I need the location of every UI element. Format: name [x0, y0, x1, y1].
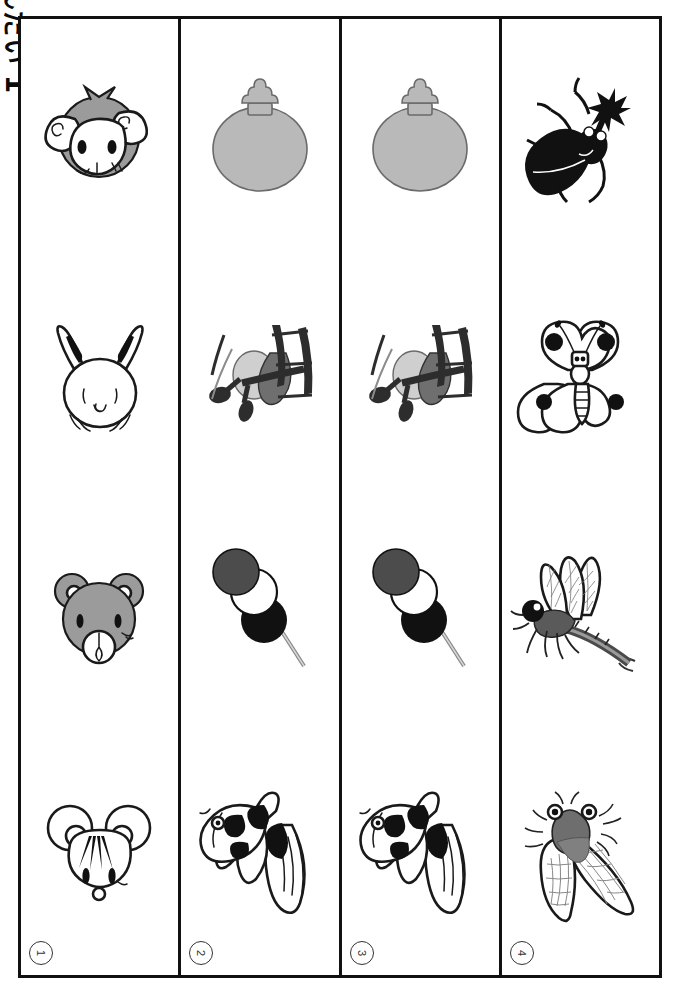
cell-c2-r2[interactable] [181, 258, 338, 497]
uchiwa-fan-icon [366, 79, 474, 199]
cell-c4-r4[interactable] [502, 736, 659, 975]
dragonfly-icon [519, 549, 641, 685]
worksheet-grid: 1 [18, 16, 662, 978]
rabbit-face-icon [44, 319, 156, 437]
cell-c2-r1[interactable] [181, 19, 338, 258]
column-2: 2 [181, 19, 341, 975]
cell-c4-r1[interactable] [502, 19, 659, 258]
cell-c1-r3[interactable] [21, 497, 178, 736]
rhinoceros-beetle-icon [519, 74, 641, 204]
butterfly-icon [520, 316, 640, 440]
cell-c3-r2[interactable] [342, 258, 499, 497]
cell-c4-r2[interactable] [502, 258, 659, 497]
cicada-icon [517, 790, 643, 922]
column-4: 4 [502, 19, 659, 975]
cell-c4-r3[interactable] [502, 497, 659, 736]
cell-c3-r3[interactable] [342, 497, 499, 736]
bear-face-icon [44, 561, 156, 673]
cell-c1-r4[interactable] [21, 736, 178, 975]
column-3: 3 [342, 19, 502, 975]
cell-c2-r3[interactable] [181, 497, 338, 736]
biplane-icon [360, 319, 480, 437]
column-1: 1 [21, 19, 181, 975]
cell-c3-r4[interactable] [342, 736, 499, 975]
column-label-3: 3 [350, 941, 374, 965]
cell-c1-r2[interactable] [21, 258, 178, 497]
uchiwa-fan-icon [206, 79, 314, 199]
biplane-icon [200, 319, 320, 437]
cell-c2-r4[interactable] [181, 736, 338, 975]
column-label-4: 4 [510, 941, 534, 965]
cell-c1-r1[interactable] [21, 19, 178, 258]
goldfish-icon [198, 791, 322, 921]
dango-skewer-icon [204, 558, 316, 676]
column-label-1: 1 [29, 941, 53, 965]
monkey-face-icon [41, 83, 159, 195]
dango-skewer-icon [364, 558, 476, 676]
mouse-face-icon [44, 800, 156, 912]
goldfish-icon [358, 791, 482, 921]
cell-c3-r1[interactable] [342, 19, 499, 258]
